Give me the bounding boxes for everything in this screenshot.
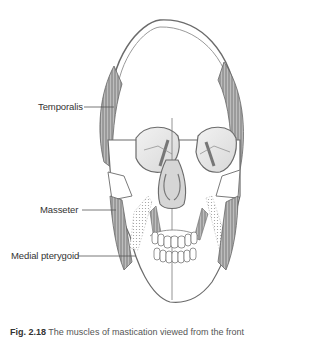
label-masseter: Masseter	[40, 204, 78, 215]
caption-text: The muscles of mastication viewed from t…	[48, 327, 244, 337]
figure-caption: Fig. 2.18 The muscles of mastication vie…	[10, 327, 244, 337]
nasal-aperture	[158, 160, 185, 209]
label-temporalis: Temporalis	[38, 101, 83, 112]
caption-number: Fig. 2.18	[10, 327, 46, 337]
label-medial-pterygoid: Medial pterygoid	[11, 250, 79, 261]
